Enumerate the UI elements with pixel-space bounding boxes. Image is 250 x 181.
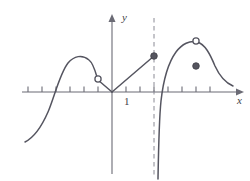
x-tick-label-one: 1	[124, 96, 130, 107]
graph-canvas	[0, 0, 250, 181]
function-graph-figure: y x 1	[0, 0, 250, 181]
filled-dot-below-peak-marker	[193, 63, 200, 70]
open-circle-peak-marker	[193, 38, 199, 44]
left-branch-curve	[25, 56, 97, 142]
y-axis-label: y	[122, 12, 127, 23]
filled-dot-asymptote-marker	[151, 53, 158, 60]
v-segment-right	[112, 56, 154, 92]
y-axis-arrow-icon	[109, 14, 116, 22]
x-axis-label: x	[237, 95, 242, 106]
right-branch-curve	[158, 41, 233, 179]
open-circle-left-marker	[95, 76, 101, 82]
